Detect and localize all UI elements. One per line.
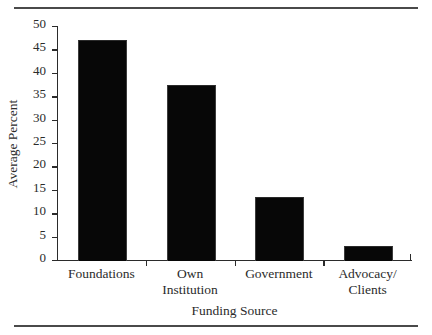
- x-category-label-3: Government: [235, 266, 324, 282]
- y-tick-label: 45: [33, 40, 46, 53]
- y-tick-label: 30: [33, 111, 46, 124]
- y-tick-label: 25: [33, 134, 46, 147]
- y-tick-label: 10: [33, 204, 46, 217]
- y-axis-title: Average Percent: [5, 84, 21, 204]
- x-category-label-2: Own Institution: [146, 266, 235, 297]
- y-tick-label: 15: [33, 181, 46, 194]
- y-tick-mark: [52, 49, 57, 50]
- bar-1: [78, 40, 127, 261]
- top-rule: [14, 7, 418, 9]
- y-tick-mark: [52, 96, 57, 97]
- y-tick-mark: [52, 120, 57, 121]
- bar-2: [167, 85, 216, 262]
- y-tick-mark: [52, 73, 57, 74]
- y-tick-mark: [52, 143, 57, 144]
- y-tick-label: 40: [33, 64, 46, 77]
- y-tick-label: 35: [33, 87, 46, 100]
- y-tick-label: 20: [33, 157, 46, 170]
- bottom-rule: [14, 325, 418, 327]
- y-axis-line: [57, 26, 58, 261]
- y-tick-mark: [52, 260, 57, 261]
- figure-container: 05101520253035404550 FoundationsOwn Inst…: [0, 0, 432, 335]
- y-tick-label: 5: [40, 228, 47, 241]
- y-tick-mark: [52, 166, 57, 167]
- x-axis-title: Funding Source: [57, 303, 412, 319]
- y-tick-label: 0: [40, 251, 47, 264]
- y-tick-mark: [52, 237, 57, 238]
- y-tick-mark: [52, 190, 57, 191]
- y-tick-mark: [52, 26, 57, 27]
- y-tick-mark: [52, 213, 57, 214]
- x-axis-end-tick: [410, 254, 411, 261]
- bar-3: [255, 197, 304, 261]
- bar-4: [344, 246, 393, 261]
- x-category-label-4: Advocacy/ Clients: [323, 266, 412, 297]
- x-category-label-1: Foundations: [57, 266, 146, 282]
- y-tick-label: 50: [33, 17, 46, 30]
